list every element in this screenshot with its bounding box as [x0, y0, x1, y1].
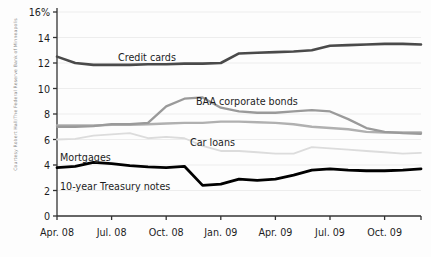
x-axis-tick-jul--09: Jul. 09	[315, 227, 345, 238]
series-label-car-loans: Car loans	[190, 137, 235, 148]
series-label-baa-corporate-bonds: BAA corporate bonds	[196, 96, 298, 107]
x-axis-tick-oct--08: Oct. 08	[149, 227, 184, 238]
series-label-mortgages: Mortgages	[60, 152, 111, 163]
series-label-credit-cards: Credit cards	[118, 52, 176, 63]
x-axis-tick-apr--09: Apr. 09	[258, 227, 292, 238]
chart-plot-area	[0, 0, 431, 257]
chart-container: Courtesy Robert Hall/The Federal Reserve…	[0, 0, 431, 257]
x-axis-tick-jul--08: Jul. 08	[97, 227, 127, 238]
series-line-mortgages	[57, 133, 421, 153]
x-axis-tick-apr--08: Apr. 08	[40, 227, 74, 238]
series-label-treasury-notes: 10-year Treasury notes	[60, 181, 170, 192]
x-axis-tick-jan--09: Jan. 09	[204, 227, 237, 238]
series-line-credit-cards	[57, 44, 421, 65]
x-axis-tick-oct--09: Oct. 09	[367, 227, 402, 238]
